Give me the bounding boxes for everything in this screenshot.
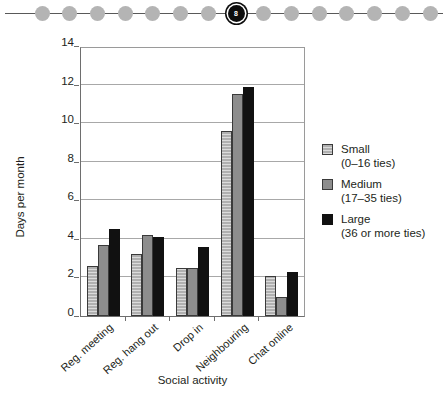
bar-medium	[187, 268, 198, 316]
y-tick-mark	[74, 123, 79, 124]
rail-dot[interactable]	[62, 6, 77, 21]
y-tick-mark	[74, 239, 79, 240]
bar-medium	[232, 94, 243, 316]
y-tick-mark	[74, 162, 79, 163]
y-tick-mark	[74, 277, 79, 278]
rail-dot[interactable]	[118, 6, 133, 21]
x-tick-label: Chat online	[245, 321, 294, 367]
bar-chart: Days per month 02468101214 Reg. meetingR…	[0, 34, 445, 407]
y-tick-label: 14	[44, 36, 74, 48]
bar-groups	[81, 48, 304, 316]
bar-group	[170, 48, 215, 316]
y-tick-label: 12	[44, 75, 74, 87]
bar-large	[198, 247, 209, 316]
legend: Small(0–16 ties)Medium(17–35 ties)Large(…	[322, 142, 442, 247]
rail-dot[interactable]	[339, 6, 354, 21]
rail-dot-active[interactable]: 8	[228, 5, 245, 22]
legend-swatch	[322, 179, 333, 190]
bar-small	[265, 276, 276, 316]
legend-sublabel: (36 or more ties)	[341, 226, 425, 240]
bar-large	[153, 237, 164, 316]
bar-large	[287, 272, 298, 316]
bar-small	[176, 268, 187, 316]
legend-item: Small(0–16 ties)	[322, 142, 442, 170]
legend-swatch	[322, 144, 333, 155]
y-tick-mark	[74, 85, 79, 86]
x-axis-title: Social activity	[80, 374, 305, 386]
legend-label: Large	[341, 212, 425, 226]
bar-medium	[276, 297, 287, 316]
rail-dot[interactable]	[367, 6, 382, 21]
rail-dot[interactable]	[284, 6, 299, 21]
rail-dot[interactable]	[312, 6, 327, 21]
legend-sublabel: (0–16 ties)	[341, 156, 395, 170]
legend-sublabel: (17–35 ties)	[341, 191, 402, 205]
y-tick-label: 2	[44, 267, 74, 279]
legend-label: Medium	[341, 177, 402, 191]
y-tick-label: 6	[44, 190, 74, 202]
legend-swatch	[322, 214, 333, 225]
rail-dot[interactable]	[256, 6, 271, 21]
bar-small	[221, 131, 232, 316]
rail-dot[interactable]	[423, 6, 438, 21]
y-tick-label: 8	[44, 152, 74, 164]
rail-dot[interactable]	[90, 6, 105, 21]
rail-dot[interactable]	[395, 6, 410, 21]
y-axis-title-text: Days per month	[14, 127, 26, 267]
y-tick-mark	[74, 46, 79, 47]
y-tick-label: 10	[44, 113, 74, 125]
bar-large	[109, 229, 120, 316]
x-tick-label: Drop in	[170, 321, 204, 354]
bar-group	[215, 48, 260, 316]
y-tick-mark	[74, 316, 79, 317]
y-axis-tick-labels: 02468101214	[40, 47, 74, 317]
legend-item: Medium(17–35 ties)	[322, 177, 442, 205]
bar-small	[87, 266, 98, 316]
bar-medium	[142, 235, 153, 316]
y-tick-label: 0	[44, 306, 74, 318]
legend-label: Small	[341, 142, 395, 156]
y-tick-mark	[74, 200, 79, 201]
y-axis-title: Days per month	[10, 129, 28, 269]
rail-dot[interactable]	[35, 6, 50, 21]
bar-large	[243, 87, 254, 316]
rail-dot[interactable]	[173, 6, 188, 21]
y-tick-label: 4	[44, 229, 74, 241]
bar-medium	[98, 245, 109, 316]
bar-group	[126, 48, 171, 316]
page-progress-rail: 8	[0, 0, 445, 34]
rail-dot[interactable]	[145, 6, 160, 21]
bar-group	[81, 48, 126, 316]
bar-group	[259, 48, 304, 316]
bar-small	[131, 254, 142, 316]
plot-area	[80, 47, 305, 317]
legend-item: Large(36 or more ties)	[322, 212, 442, 240]
rail-dot[interactable]	[201, 6, 216, 21]
